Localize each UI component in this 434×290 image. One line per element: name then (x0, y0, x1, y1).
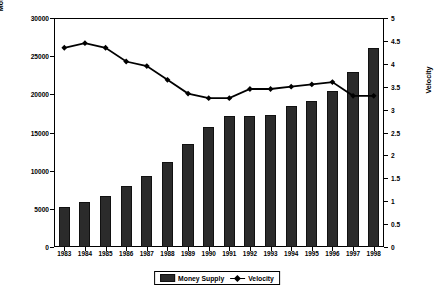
velocity-data-point (371, 93, 377, 99)
x-axis-tick-label: 1996 (325, 250, 339, 257)
y-right-tick-label: 5 (391, 15, 395, 22)
legend-label-money-supply: Money Supply (178, 275, 224, 282)
y-right-tickmark (384, 18, 388, 19)
x-axis-tick-label: 1989 (181, 250, 195, 257)
y-left-tick-label: 10000 (31, 167, 49, 174)
velocity-data-point (309, 82, 315, 88)
line-diamond-icon (230, 275, 245, 282)
y-right-tick-label: 3.5 (391, 83, 400, 90)
chart-container: Money supply in billions of marks Veloci… (0, 0, 434, 290)
legend-label-velocity: Velocity (248, 275, 274, 282)
x-axis-tick-label: 1983 (57, 250, 71, 257)
velocity-data-point (82, 40, 88, 46)
y-left-tick-label: 15000 (31, 129, 49, 136)
x-axis-tick-label: 1992 (243, 250, 257, 257)
y-right-tickmark (384, 64, 388, 65)
legend-item-velocity: Velocity (230, 275, 274, 282)
x-axis-labels: 1983198419851986198719881989199019911992… (0, 250, 434, 264)
legend-item-money-supply: Money Supply (160, 274, 224, 282)
x-axis-tick-label: 1997 (346, 250, 360, 257)
y-right-tickmark (384, 87, 388, 88)
y-left-tickmark (50, 94, 54, 95)
y-left-tick-label: 5000 (34, 205, 49, 212)
velocity-data-point (61, 45, 67, 51)
x-axis-tick-label: 1998 (367, 250, 381, 257)
y-right-tick-label: 1.5 (391, 175, 400, 182)
y-right-tick-label: 4 (391, 60, 395, 67)
velocity-data-point (206, 95, 212, 101)
velocity-data-point (288, 84, 294, 90)
y-right-tickmark (384, 155, 388, 156)
y-right-tickmark (384, 133, 388, 134)
x-axis-tick-label: 1985 (98, 250, 112, 257)
line-series-velocity (54, 18, 384, 247)
velocity-line-path (64, 43, 373, 98)
y-right-tickmark (384, 178, 388, 179)
x-axis-tick-label: 1993 (263, 250, 277, 257)
bar-swatch-icon (160, 274, 175, 282)
y-right-tick-label: 1 (391, 198, 395, 205)
x-axis-tick-label: 1990 (202, 250, 216, 257)
y-left-tick-label: 20000 (31, 91, 49, 98)
y-right-tick-label: 2 (391, 152, 395, 159)
y-left-tickmark (50, 133, 54, 134)
x-axis-tick-label: 1984 (78, 250, 92, 257)
chart-legend: Money Supply Velocity (154, 271, 280, 285)
x-axis-tick-label: 1991 (222, 250, 236, 257)
velocity-data-point (247, 86, 253, 92)
x-axis-tick-label: 1995 (305, 250, 319, 257)
y-left-tickmark (50, 171, 54, 172)
y-right-tickmark (384, 110, 388, 111)
x-axis-tick-label: 1986 (119, 250, 133, 257)
x-axis-tick-label: 1994 (284, 250, 298, 257)
y-right-tickmark (384, 224, 388, 225)
x-axis-tick-label: 1988 (160, 250, 174, 257)
y-left-tickmark (50, 18, 54, 19)
x-axis-tick-label: 1987 (140, 250, 154, 257)
y-right-tick-label: 4.5 (391, 37, 400, 44)
y-right-tickmark (384, 247, 388, 248)
y-axis-right-ticks: 00.511.522.533.544.55 (391, 0, 421, 290)
y-right-tick-label: 0.5 (391, 221, 400, 228)
y-axis-right-title: Velocity (424, 50, 433, 110)
y-right-tick-label: 2.5 (391, 129, 400, 136)
y-left-tickmark (50, 247, 54, 248)
y-right-tick-label: 3 (391, 106, 395, 113)
y-left-tickmark (50, 209, 54, 210)
velocity-data-point (268, 86, 274, 92)
y-left-tick-label: 25000 (31, 53, 49, 60)
y-left-tickmark (50, 56, 54, 57)
y-axis-left-ticks: 050001000015000200002500030000 (0, 0, 49, 290)
y-right-tickmark (384, 41, 388, 42)
y-left-tick-label: 30000 (31, 15, 49, 22)
velocity-data-point (226, 95, 232, 101)
y-right-tickmark (384, 201, 388, 202)
